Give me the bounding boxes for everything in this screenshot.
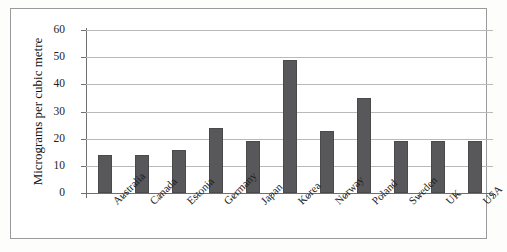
bar [468, 141, 482, 193]
chart-screenshot: Micrograms per cubic metre 0102030405060… [0, 0, 507, 252]
y-tick-mark [81, 112, 86, 113]
x-axis-line [86, 193, 494, 194]
bar [320, 131, 334, 193]
y-tick-label: 60 [25, 24, 65, 36]
y-tick-mark [81, 166, 86, 167]
gridline [86, 57, 493, 58]
x-tick-mark [197, 193, 198, 198]
chart-frame: Micrograms per cubic metre 0102030405060… [10, 8, 487, 239]
x-category-label: Canada [148, 199, 156, 207]
x-tick-mark [382, 193, 383, 198]
x-category-label: USA [481, 199, 489, 207]
x-category-label: Sweden [407, 199, 415, 207]
x-category-label: Japan [259, 199, 267, 207]
x-category-label: Estonia [185, 199, 193, 207]
x-category-label: Australia [111, 199, 119, 207]
x-tick-mark [271, 193, 272, 198]
x-tick-mark [160, 193, 161, 198]
y-tick-mark [81, 30, 86, 31]
x-tick-mark [86, 193, 87, 198]
x-tick-mark [123, 193, 124, 198]
y-tick-label: 30 [25, 106, 65, 118]
x-tick-mark [345, 193, 346, 198]
y-tick-label: 20 [25, 133, 65, 145]
x-category-label: Poland [370, 199, 378, 207]
y-tick-mark [81, 139, 86, 140]
x-tick-mark [456, 193, 457, 198]
bar [283, 60, 297, 193]
x-tick-mark [419, 193, 420, 198]
y-tick-label: 40 [25, 78, 65, 90]
y-tick-label: 0 [25, 187, 65, 199]
x-category-label: Korea [296, 199, 304, 207]
x-tick-mark [308, 193, 309, 198]
y-tick-label: 50 [25, 51, 65, 63]
bar [98, 155, 112, 193]
x-category-label: UK [444, 199, 452, 207]
y-tick-mark [81, 57, 86, 58]
plot-area [86, 30, 493, 193]
gridline [86, 30, 493, 31]
x-category-label: Norway [333, 199, 341, 207]
x-tick-mark [234, 193, 235, 198]
y-tick-label: 10 [25, 160, 65, 172]
x-category-label: Germany [222, 199, 230, 207]
y-tick-mark [81, 84, 86, 85]
x-tick-mark [493, 193, 494, 198]
